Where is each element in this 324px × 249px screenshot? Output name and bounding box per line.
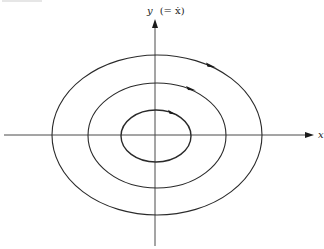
middle-orbit-direction-arrow-icon xyxy=(186,86,196,91)
y-axis-arrow-icon xyxy=(152,19,158,28)
phase-portrait-diagram: x y (= ẋ) xyxy=(0,0,324,249)
inner-orbit xyxy=(121,110,191,162)
y-axis-label: y (= ẋ) xyxy=(146,0,185,17)
y-axis-label-rest: (= ẋ) xyxy=(160,5,185,16)
y-axis-label-var: y xyxy=(146,5,153,16)
x-axis-label: x xyxy=(318,129,324,140)
outer-orbit-direction-arrow-icon xyxy=(206,63,216,68)
x-axis-arrow-icon xyxy=(305,132,314,138)
